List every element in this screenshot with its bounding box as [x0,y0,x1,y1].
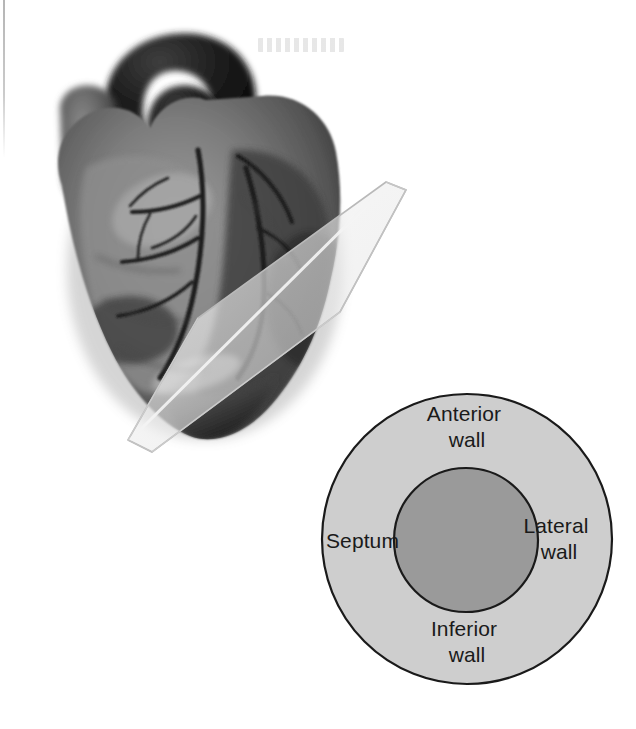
label-lateral-wall-line2: wall [540,540,578,563]
inner-circle-cavity [394,468,538,612]
label-inferior-wall-line2: wall [448,643,486,666]
label-inferior-wall-line1: Inferior [431,617,497,640]
label-anterior-wall-line1: Anterior [427,402,501,425]
cross-section-diagram: Anterior wall Septum Lateral wall Inferi… [312,378,636,708]
label-septum-line1: Septum [326,529,399,552]
label-lateral-wall-line1: Lateral [524,514,589,537]
label-septum: Septum [326,529,399,552]
label-anterior-wall-line2: wall [448,428,486,451]
cardiac-cross-section-figure: Anterior wall Septum Lateral wall Inferi… [0,0,636,729]
